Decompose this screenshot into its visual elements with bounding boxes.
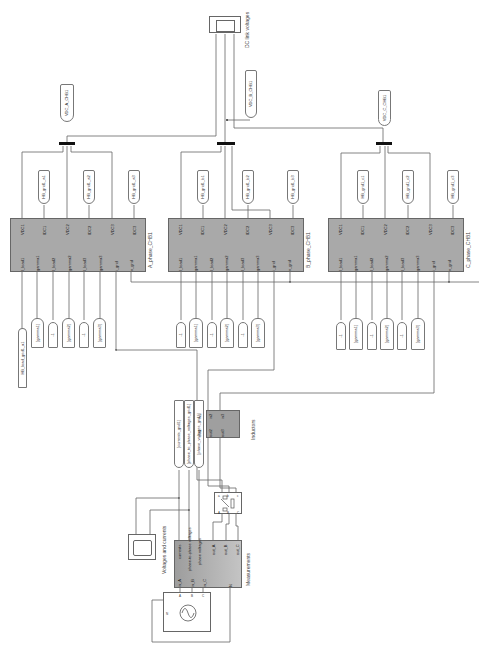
from-tag-c-gamma3[interactable]: [gamma3] xyxy=(411,318,425,350)
measurements-block[interactable]: currents phase-to-phase voltages phase v… xyxy=(174,540,242,588)
port-out-b: out_B xyxy=(224,545,228,555)
goto-idc-a3[interactable]: HB_grid1_a3 xyxy=(128,170,140,204)
port-gamma1: gamma1 xyxy=(354,255,358,271)
port-idc1: IDC1 xyxy=(201,226,205,235)
goto-idc-a2[interactable]: HB_grid1_a2 xyxy=(83,170,95,204)
port-i-load3: I_load3 xyxy=(241,258,245,271)
chb-block-c-label: C_phase_CHB1 xyxy=(466,232,471,268)
chb-block-a-phase[interactable]: VDC1 IDC1 VDC2 IDC2 VDC3 IDC3 I_load1 ga… xyxy=(10,218,146,272)
goto-vdc-b-chb1[interactable]: VDC_B_CHB1 xyxy=(245,70,257,118)
port-out1: out1 xyxy=(198,429,202,437)
port-vdc2: VDC2 xyxy=(384,224,388,235)
scope-screen xyxy=(216,20,235,32)
voltages-and-currents-label: Voltages and currents xyxy=(162,526,167,574)
from-tag-c-load1[interactable]: -1 xyxy=(336,322,346,350)
port-gamma2: gamma2 xyxy=(385,255,389,271)
port-idc3: IDC3 xyxy=(133,226,137,235)
port-vdc2: VDC2 xyxy=(224,224,228,235)
from-tag-b-gamma3[interactable]: [gamma3] xyxy=(251,318,265,348)
goto-idc-c3[interactable]: HB_grid1_c3 xyxy=(447,170,459,204)
goto-vdc-c-chb1[interactable]: VDC_C_CHB1 xyxy=(378,90,391,126)
port-gamma3: gamma3 xyxy=(256,255,260,271)
from-tag-b-load3[interactable]: -1 xyxy=(238,322,248,348)
port-vdc3: VDC3 xyxy=(111,224,115,235)
port-i-grid: i_grid xyxy=(272,261,276,271)
goto-idc-b3[interactable]: HB_grid1_b3 xyxy=(287,170,299,204)
port-idc2: IDC2 xyxy=(246,226,250,235)
goto-idc-b1[interactable]: HB_grid1_b1 xyxy=(197,170,209,204)
port-out2: out2 xyxy=(209,429,213,437)
port-v-grid: v_grid xyxy=(448,260,452,271)
port-gamma2: gamma2 xyxy=(225,255,229,271)
port-i-load3: I_load3 xyxy=(401,258,405,271)
from-tag-a-gamma2[interactable]: [gamma2] xyxy=(62,318,75,348)
from-tag-b-load1[interactable]: -1 xyxy=(176,322,186,348)
port-vdc1: VDC1 xyxy=(21,224,25,235)
port-currents: currents xyxy=(178,545,182,559)
chb-block-b-phase[interactable]: VDC1 IDC1 VDC2 IDC2 VDC3 IDC3 I_load1 ga… xyxy=(168,218,304,272)
svg-text:A: A xyxy=(218,511,220,515)
breaker-switch-icon: a b c A B C xyxy=(215,493,243,515)
mux-bar-c[interactable] xyxy=(376,142,392,145)
three-phase-source[interactable]: A B C N xyxy=(163,592,211,632)
svg-text:A: A xyxy=(179,594,181,598)
port-vdc1: VDC1 xyxy=(179,224,183,235)
port-in2: in2 xyxy=(209,414,213,419)
port-v-grid: v_grid xyxy=(130,260,134,271)
port-vdc3: VDC3 xyxy=(429,224,433,235)
chb-block-b-label: B_phase_CHB1 xyxy=(306,232,311,268)
from-tag-b-load2[interactable]: -1 xyxy=(207,322,217,348)
goto-currents-grid1[interactable]: [currents_grid1] xyxy=(174,400,184,468)
from-tag-a-load2[interactable]: -1 xyxy=(48,322,58,348)
goto-phase-to-phase-voltages-grid1[interactable]: [phase_to_phase_voltages_grid1] xyxy=(184,400,194,468)
port-i-load1: I_load1 xyxy=(21,258,25,271)
port-in3: in3 xyxy=(221,414,225,419)
port-gamma3: gamma3 xyxy=(99,255,103,271)
three-phase-breaker[interactable]: a b c A B C xyxy=(214,492,242,514)
inductors-block[interactable]: in1 in2 in3 out1 out2 out3 xyxy=(206,410,240,438)
from-tag-c-gamma1[interactable]: [gamma1] xyxy=(349,318,363,350)
from-tag-c-gamma2[interactable]: [gamma2] xyxy=(380,318,394,350)
port-gamma2: gamma2 xyxy=(68,255,72,271)
mux-bar-b[interactable] xyxy=(217,142,235,145)
port-idc2: IDC2 xyxy=(406,226,410,235)
from-tag-c-load3[interactable]: -1 xyxy=(397,322,407,350)
from-tag-a-gamma3[interactable]: [gamma3] xyxy=(93,318,106,348)
port-idc3: IDC3 xyxy=(291,226,295,235)
port-in-b: in_B xyxy=(191,579,195,587)
svg-text:N: N xyxy=(166,612,168,616)
port-idc2: IDC2 xyxy=(88,226,92,235)
port-i-load2: I_load2 xyxy=(210,258,214,271)
port-v-grid: v_grid xyxy=(288,260,292,271)
from-tag-c-load2[interactable]: -1 xyxy=(367,322,377,350)
ac-source-icon: A B C N xyxy=(164,593,212,633)
port-i-load1: I_load1 xyxy=(179,258,183,271)
from-tag-a-load1[interactable]: HB_load_grid1_a1 xyxy=(18,328,27,388)
dc-link-voltages-label: DC link voltages xyxy=(245,12,250,48)
port-in1: in1 xyxy=(198,414,202,419)
chb-block-c-phase[interactable]: VDC1 IDC1 VDC2 IDC2 VDC3 IDC3 I_load1 ga… xyxy=(328,218,464,272)
goto-idc-c1[interactable]: HB_grid1_c1 xyxy=(357,170,369,204)
mux-bar-a[interactable] xyxy=(59,142,75,145)
goto-idc-a1[interactable]: HB_grid1_a1 xyxy=(38,170,50,204)
from-tag-b-gamma1[interactable]: [gamma1] xyxy=(189,318,203,348)
voltages-and-currents-scope[interactable] xyxy=(128,534,156,560)
svg-text:C: C xyxy=(202,594,205,598)
dc-link-voltages-scope[interactable] xyxy=(209,16,241,33)
from-tag-a-gamma1[interactable]: [gamma1] xyxy=(31,318,44,348)
svg-text:c: c xyxy=(237,494,239,498)
port-idc3: IDC3 xyxy=(451,226,455,235)
goto-idc-c2[interactable]: HB_grid1_c2 xyxy=(402,170,414,204)
goto-idc-b2[interactable]: HB_grid1_b2 xyxy=(242,170,254,204)
measurements-label: Measurements xyxy=(246,553,251,586)
port-vdc1: VDC1 xyxy=(339,224,343,235)
from-tag-a-load3[interactable]: -1 xyxy=(79,322,89,348)
port-vdc2: VDC2 xyxy=(66,224,70,235)
port-phase-voltages: phase voltages xyxy=(198,538,202,565)
goto-vdc-a-chb1[interactable]: VDC_A_CHB1 xyxy=(60,84,74,122)
from-tag-b-gamma2[interactable]: [gamma2] xyxy=(220,318,234,348)
port-idc1: IDC1 xyxy=(43,226,47,235)
port-i-load1: I_load1 xyxy=(339,258,343,271)
port-n: N xyxy=(229,584,233,587)
inductors-label: Inductors xyxy=(251,419,256,440)
